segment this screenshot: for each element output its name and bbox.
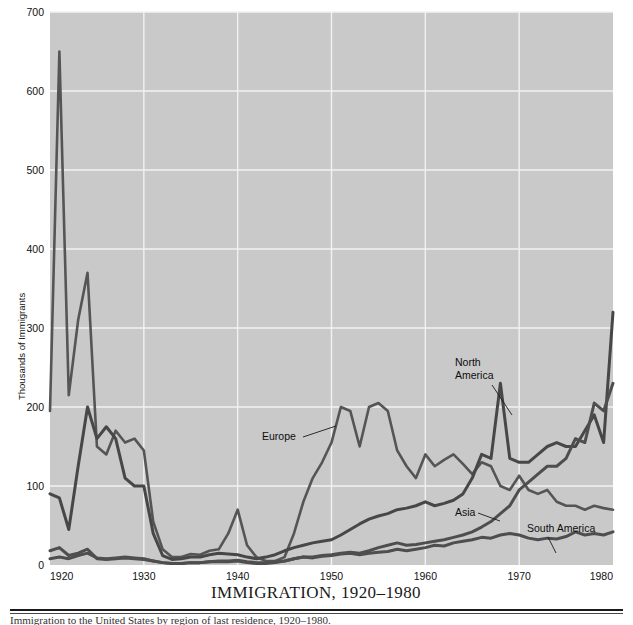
x-tick-label: 1920 [50, 570, 74, 582]
x-tick-label: 1970 [507, 570, 531, 582]
x-tick-label: 1950 [320, 570, 344, 582]
y-tick-label: 300 [26, 322, 44, 334]
y-tick-label: 700 [26, 6, 44, 18]
y-tick-label: 100 [26, 480, 44, 492]
x-tick-label: 1960 [414, 570, 438, 582]
immigration-chart-figure: 0100200300400500600700 19201930194019501… [0, 0, 633, 625]
series-label-south-america: South America [527, 522, 595, 534]
y-tick-label: 500 [26, 164, 44, 176]
x-tick-label: 1930 [132, 570, 156, 582]
y-tick-label: 200 [26, 401, 44, 413]
x-tick-label: 1940 [226, 570, 250, 582]
chart-footnote: Immigration to the United States by regi… [10, 614, 331, 625]
y-axis-title: Thousands of Immigrants [16, 293, 27, 400]
y-tick-label: 600 [26, 85, 44, 97]
series-label-europe: Europe [262, 430, 296, 442]
x-tick-label: 1980 [590, 570, 614, 582]
x-axis-tick-labels: 1920193019401950196019701980 [50, 570, 613, 582]
chart-caption: IMMIGRATION, 1920–1980 [211, 583, 421, 602]
y-tick-label: 400 [26, 243, 44, 255]
y-tick-label: 0 [38, 559, 44, 571]
series-label-asia: Asia [455, 506, 476, 518]
